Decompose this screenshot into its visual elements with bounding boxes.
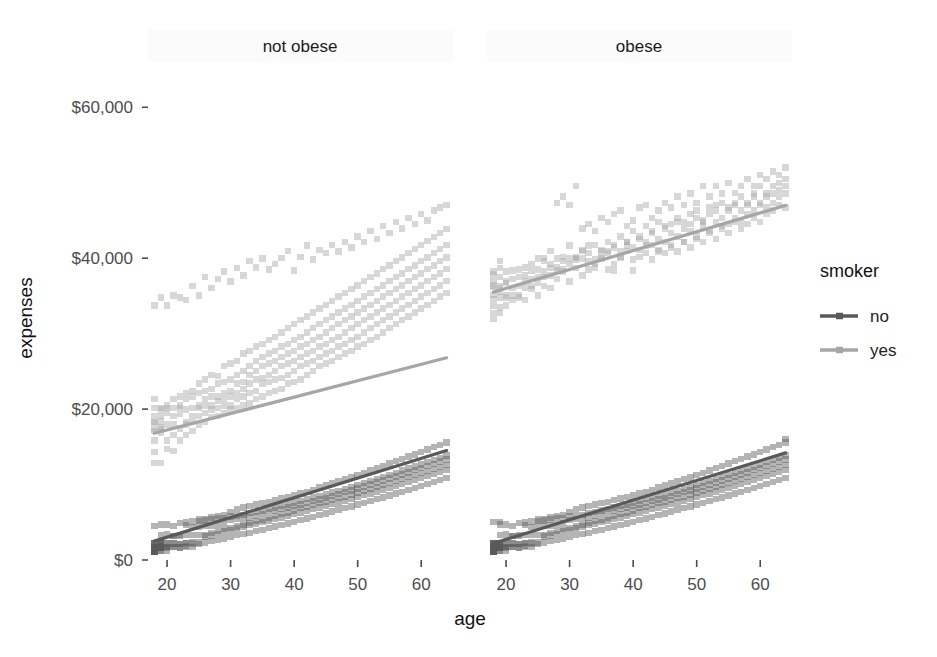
data-point	[246, 258, 252, 264]
x-tick-label: 20	[158, 575, 177, 594]
data-point	[246, 363, 252, 369]
data-point	[202, 516, 208, 522]
data-point	[278, 386, 284, 392]
data-point	[386, 230, 392, 236]
data-point	[554, 255, 560, 261]
data-point	[585, 503, 591, 509]
data-point	[693, 200, 699, 206]
data-point	[234, 523, 240, 529]
data-point	[177, 402, 183, 408]
data-point	[405, 290, 411, 296]
data-point	[164, 402, 170, 408]
data-point	[253, 528, 259, 534]
data-point	[560, 193, 566, 199]
data-point	[687, 244, 693, 250]
data-point	[374, 236, 380, 242]
data-point	[662, 482, 668, 488]
data-point	[266, 266, 272, 272]
data-point	[431, 274, 437, 280]
data-point	[329, 242, 335, 248]
data-point	[278, 329, 284, 335]
data-point	[386, 290, 392, 296]
data-point	[221, 396, 227, 402]
data-point	[215, 393, 221, 399]
data-point	[234, 380, 240, 386]
facet-strip-left-label: not obese	[263, 37, 338, 56]
data-point	[189, 539, 195, 545]
data-point	[751, 183, 757, 189]
facet-strip-left: not obese	[148, 30, 453, 62]
data-point	[424, 446, 430, 452]
data-point	[361, 293, 367, 299]
data-point	[770, 444, 776, 450]
data-point	[700, 500, 706, 506]
data-point	[151, 523, 157, 529]
data-point	[693, 207, 699, 213]
data-point	[437, 246, 443, 252]
data-point	[418, 461, 424, 467]
data-point	[374, 476, 380, 482]
data-point	[253, 358, 259, 364]
data-point	[431, 298, 437, 304]
data-point	[202, 539, 208, 545]
data-point	[554, 537, 560, 543]
data-point	[744, 487, 750, 493]
data-point	[246, 530, 252, 536]
data-point	[259, 341, 265, 347]
data-point	[215, 276, 221, 282]
data-point	[215, 380, 221, 386]
data-point	[554, 200, 560, 206]
data-point	[164, 302, 170, 308]
plot-background	[0, 0, 937, 657]
data-point	[348, 337, 354, 343]
data-point	[405, 215, 411, 221]
data-point	[164, 446, 170, 452]
data-point	[782, 475, 788, 481]
data-point	[681, 219, 687, 225]
data-point	[611, 211, 617, 217]
data-point	[424, 238, 430, 244]
data-point	[266, 372, 272, 378]
data-point	[617, 207, 623, 213]
data-point	[497, 258, 503, 264]
data-point	[687, 503, 693, 509]
data-point	[259, 527, 265, 533]
data-point	[535, 532, 541, 538]
data-point	[706, 211, 712, 217]
data-point	[431, 207, 437, 213]
data-point	[719, 463, 725, 469]
data-point	[227, 402, 233, 408]
data-point	[291, 499, 297, 505]
data-point	[329, 508, 335, 514]
data-point	[706, 193, 712, 199]
data-point	[310, 337, 316, 343]
data-point	[266, 350, 272, 356]
data-point	[585, 221, 591, 227]
data-point	[541, 255, 547, 261]
data-point	[713, 236, 719, 242]
data-point	[668, 508, 674, 514]
data-point	[367, 325, 373, 331]
data-point	[164, 521, 170, 527]
data-point	[681, 225, 687, 231]
data-point	[246, 380, 252, 386]
data-point	[151, 460, 157, 466]
data-point	[342, 486, 348, 492]
data-point	[221, 535, 227, 541]
y-axis-title: expenses	[15, 277, 36, 358]
data-point	[437, 293, 443, 299]
data-point	[630, 217, 636, 223]
data-point	[323, 302, 329, 308]
data-point	[259, 517, 265, 523]
panel-left-bg	[148, 62, 453, 560]
data-point	[605, 266, 611, 272]
data-point	[151, 413, 157, 419]
data-point	[528, 518, 534, 524]
data-point	[547, 514, 553, 520]
data-point	[367, 228, 373, 234]
data-point	[177, 393, 183, 399]
data-point	[592, 228, 598, 234]
data-point	[285, 350, 291, 356]
x-tick-label: 20	[497, 575, 516, 594]
data-point	[443, 254, 449, 260]
